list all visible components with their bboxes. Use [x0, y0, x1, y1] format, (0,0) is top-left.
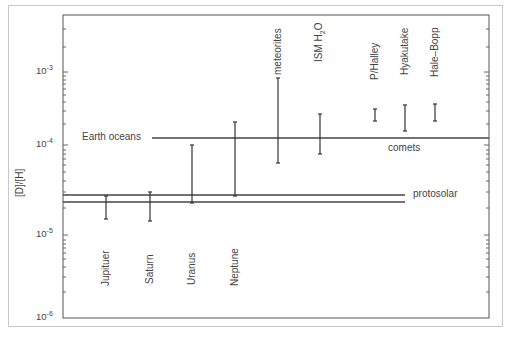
label-p-halley: P/Halley — [369, 43, 380, 80]
label-meteorites: meteorites — [272, 28, 283, 75]
errorbar-hale-bopp — [433, 104, 437, 121]
y-tick-1e-3: 10-3 — [36, 64, 53, 76]
errorbar-jupiter — [104, 196, 108, 219]
label-hyakutake: Hyakutake — [399, 28, 410, 75]
errorbar-p-halley — [373, 109, 377, 121]
errorbar-hyakutake — [403, 105, 407, 131]
errorbar-ism-h2o — [318, 114, 322, 154]
protosolar-label: protosolar — [413, 188, 457, 199]
label-jupiter: Jupituer — [100, 250, 111, 286]
label-ism-h2o: ISM H2O — [313, 23, 326, 62]
label-hale-bopp: Hale–Bopp — [429, 28, 440, 77]
label-uranus: Uranus — [186, 253, 197, 285]
y-tick-1e-5: 10-5 — [36, 227, 53, 239]
comets-label: comets — [388, 142, 420, 153]
y-tick-1e-4: 10-4 — [36, 137, 53, 149]
y-axis-label: [D]/[H] — [14, 169, 25, 197]
left-axis-ticks — [63, 29, 68, 292]
errorbar-saturn — [148, 192, 152, 221]
y-tick-1e-6: 10-6 — [36, 310, 53, 322]
errorbar-uranus — [190, 145, 194, 203]
earth-oceans-label: Earth oceans — [82, 131, 141, 142]
errorbar-meteorites — [276, 78, 280, 163]
label-neptune: Neptune — [229, 248, 240, 286]
label-saturn: Saturn — [144, 255, 155, 284]
right-axis-ticks — [484, 29, 489, 292]
errorbar-neptune — [233, 122, 237, 196]
